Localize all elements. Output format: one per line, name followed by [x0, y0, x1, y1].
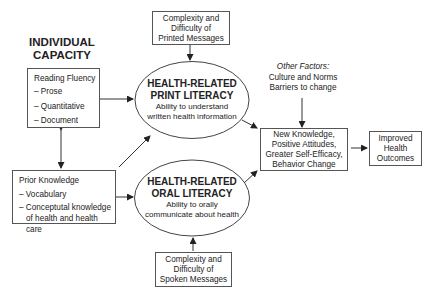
- intermediate-outcomes-line: Behavior Change: [261, 160, 347, 170]
- intermediate-outcomes-line: New Knowledge,: [261, 130, 347, 140]
- individual-capacity-heading: INDIVIDUAL CAPACITY: [20, 36, 104, 62]
- other-factors-title: Other Factors:: [255, 62, 351, 73]
- print-literacy-title1: HEALTH-RELATED: [135, 78, 249, 90]
- print-literacy-sub1: Ability to understand: [135, 102, 249, 112]
- print-literacy-label: HEALTH-RELATED PRINT LITERACY Ability to…: [135, 78, 249, 122]
- spoken-messages-line: Difficulty of: [156, 265, 231, 275]
- other-factors-line2: Barriers to change: [255, 83, 351, 94]
- improved-outcomes-line: Health: [370, 144, 421, 154]
- reading-fluency-title: Reading Fluency: [34, 73, 99, 85]
- printed-messages-line: Printed Messages: [153, 34, 229, 44]
- print-literacy-sub2: written health information: [135, 112, 249, 122]
- intermediate-outcomes-box: New Knowledge, Positive Attitudes, Great…: [260, 128, 348, 171]
- oral-literacy-title2: ORAL LITERACY: [135, 188, 249, 200]
- prior-knowledge-box: Prior Knowledge – Vocabulary – Conceptut…: [12, 170, 116, 224]
- intermediate-outcomes-line: Greater Self-Efficacy,: [261, 150, 347, 160]
- heading-line2: CAPACITY: [20, 49, 104, 62]
- spoken-messages-box: Complexity and Difficulty of Spoken Mess…: [155, 252, 232, 287]
- improved-outcomes-box: Improved Health Outcomes: [369, 131, 422, 166]
- prior-knowledge-title: Prior Knowledge: [19, 174, 115, 188]
- printed-messages-line: Difficulty of: [153, 24, 229, 34]
- intermediate-outcomes-line: Positive Attitudes,: [261, 140, 347, 150]
- prior-knowledge-item: – Vocabulary: [19, 188, 115, 202]
- oral-literacy-sub2: communicate about health: [135, 210, 249, 220]
- print-literacy-title2: PRINT LITERACY: [135, 90, 249, 102]
- improved-outcomes-line: Improved: [370, 134, 421, 144]
- other-factors-line1: Culture and Norms: [255, 73, 351, 84]
- spoken-messages-line: Complexity and: [156, 255, 231, 265]
- heading-line1: INDIVIDUAL: [20, 36, 104, 49]
- reading-fluency-box: Reading Fluency – Prose – Quantitative –…: [27, 68, 100, 128]
- oral-literacy-label: HEALTH-RELATED ORAL LITERACY Ability to …: [135, 176, 249, 220]
- oral-literacy-sub1: Ability to orally: [135, 200, 249, 210]
- printed-messages-line: Complexity and: [153, 14, 229, 24]
- arrow-prior-to-print: [119, 136, 150, 167]
- oral-literacy-title1: HEALTH-RELATED: [135, 176, 249, 188]
- spoken-messages-line: Spoken Messages: [156, 275, 231, 285]
- other-factors-label: Other Factors: Culture and Norms Barrier…: [255, 62, 351, 94]
- improved-outcomes-line: Outcomes: [370, 154, 421, 164]
- reading-fluency-item: – Quantitative: [34, 100, 99, 115]
- printed-messages-box: Complexity and Difficulty of Printed Mes…: [152, 11, 230, 45]
- reading-fluency-item: – Document: [34, 114, 99, 129]
- prior-knowledge-item: – Conceptutal knowledge: [19, 202, 115, 213]
- reading-fluency-item: – Prose: [34, 85, 99, 100]
- prior-knowledge-item: of health and health care: [19, 213, 115, 235]
